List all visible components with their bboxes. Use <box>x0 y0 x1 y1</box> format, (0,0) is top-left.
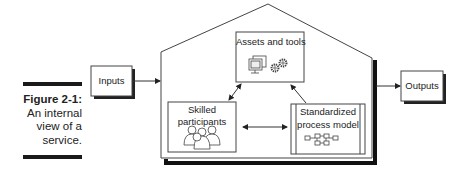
inputs-label: Inputs <box>91 75 132 87</box>
figure-caption: Figure 2-1: An internal view of a servic… <box>23 93 82 147</box>
caption-line-3: service. <box>23 134 82 148</box>
caption-line-2: view of a <box>23 120 82 134</box>
assets-label: Assets and tools <box>236 36 304 48</box>
caption-bottom-rule <box>23 155 82 159</box>
caption-top-rule <box>23 82 82 86</box>
process-label-line1: Standardized <box>296 106 360 118</box>
process-label-line2: process model <box>291 119 365 131</box>
figure-canvas: Figure 2-1: An internal view of a servic… <box>0 0 468 172</box>
figure-label: Figure 2-1: <box>23 93 82 107</box>
outputs-label: Outputs <box>401 80 443 92</box>
caption-line-1: An internal <box>23 107 82 121</box>
participants-label-line1: Skilled <box>168 104 236 116</box>
participants-label-line2: participants <box>168 116 236 128</box>
